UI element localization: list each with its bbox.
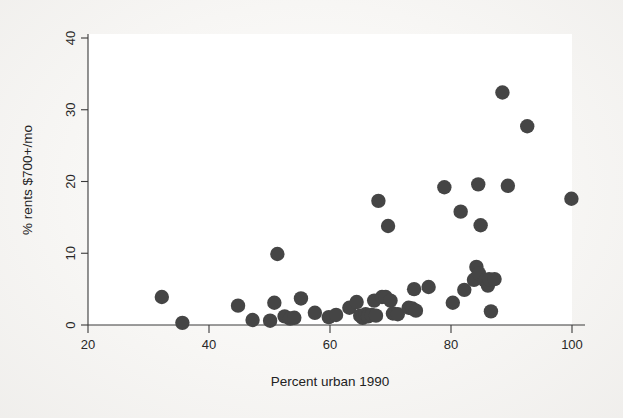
- plot-canvas: 010203040 20406080100 Percent urban 1990…: [0, 0, 623, 418]
- x-tick-label: 40: [202, 337, 216, 352]
- data-point: [381, 219, 395, 233]
- data-point: [484, 304, 498, 318]
- data-point: [349, 295, 363, 309]
- data-point: [371, 194, 385, 208]
- x-tick-label: 100: [561, 337, 583, 352]
- data-point: [308, 306, 322, 320]
- y-tick-label: 10: [63, 246, 78, 260]
- data-point: [501, 179, 515, 193]
- data-point: [471, 177, 485, 191]
- data-point: [487, 272, 501, 286]
- y-axis-ticks: 010203040: [63, 31, 89, 329]
- data-point: [421, 280, 435, 294]
- data-point: [473, 218, 487, 232]
- data-point: [267, 296, 281, 310]
- data-point: [287, 311, 301, 325]
- data-point: [231, 298, 245, 312]
- x-axis-ticks: 20406080100: [81, 325, 583, 352]
- data-point: [453, 204, 467, 218]
- data-point: [409, 303, 423, 317]
- data-point: [520, 119, 534, 133]
- data-point: [407, 282, 421, 296]
- y-tick-label: 20: [63, 174, 78, 188]
- x-tick-label: 80: [444, 337, 458, 352]
- data-point: [564, 192, 578, 206]
- data-point: [369, 308, 383, 322]
- data-point: [175, 316, 189, 330]
- x-axis-title: Percent urban 1990: [271, 374, 390, 389]
- data-point: [495, 85, 509, 99]
- data-point: [263, 313, 277, 327]
- data-point: [155, 290, 169, 304]
- data-point: [294, 291, 308, 305]
- y-tick-label: 0: [63, 321, 78, 328]
- data-point: [329, 308, 343, 322]
- x-tick-label: 20: [81, 337, 95, 352]
- data-point: [245, 313, 259, 327]
- y-tick-label: 30: [63, 103, 78, 117]
- y-axis-title: % rents $700+/mo: [20, 125, 35, 235]
- y-tick-label: 40: [63, 31, 78, 45]
- data-point: [437, 180, 451, 194]
- data-point: [383, 293, 397, 307]
- scatter-plot-figure: 010203040 20406080100 Percent urban 1990…: [0, 0, 623, 418]
- data-point: [270, 247, 284, 261]
- x-tick-label: 60: [323, 337, 337, 352]
- data-point: [446, 296, 460, 310]
